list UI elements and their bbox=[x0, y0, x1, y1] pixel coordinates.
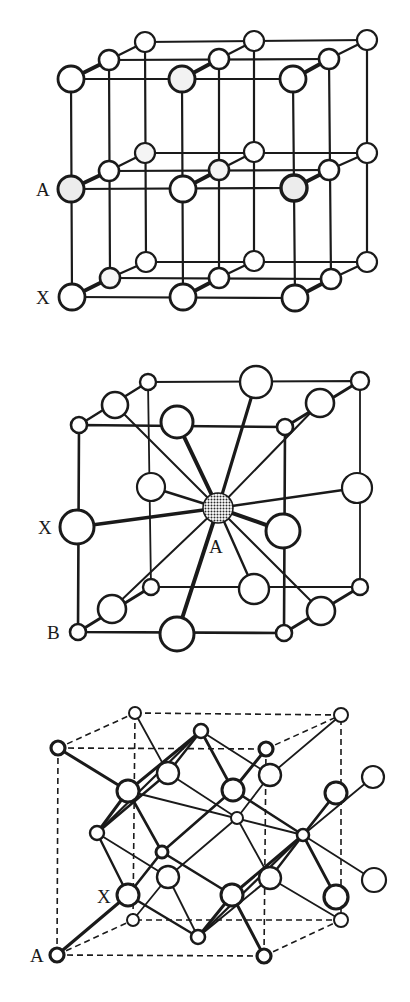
crystal-structures-figure: A X bbox=[0, 0, 410, 1002]
atom-A-label-target bbox=[58, 176, 84, 202]
layered-structure-diagram: A X bbox=[36, 30, 377, 311]
spinel-structure-diagram: X A bbox=[30, 707, 386, 966]
X-atoms-spinel bbox=[117, 762, 386, 909]
label-X-bottom: X bbox=[97, 886, 111, 907]
label-A-middle: A bbox=[209, 536, 223, 557]
label-B-middle: B bbox=[47, 622, 60, 643]
label-X-top: X bbox=[36, 287, 50, 308]
label-A-top: A bbox=[36, 179, 50, 200]
atom-A-center bbox=[203, 493, 233, 523]
label-A-bottom: A bbox=[30, 945, 44, 966]
perovskite-structure-diagram: X A B bbox=[38, 366, 372, 651]
label-X-middle: X bbox=[38, 517, 52, 538]
